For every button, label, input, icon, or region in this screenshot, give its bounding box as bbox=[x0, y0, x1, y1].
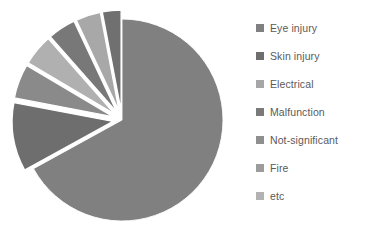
legend-item[interactable]: Electrical bbox=[256, 70, 376, 98]
pie-chart-figure: Eye injurySkin injuryElectricalMalfuncti… bbox=[0, 0, 376, 230]
legend-item[interactable]: Not-significant bbox=[256, 126, 376, 154]
chart-legend: Eye injurySkin injuryElectricalMalfuncti… bbox=[256, 14, 376, 210]
legend-swatch-icon bbox=[256, 164, 264, 172]
legend-swatch-icon bbox=[256, 80, 264, 88]
legend-swatch-icon bbox=[256, 136, 264, 144]
legend-item[interactable]: Eye injury bbox=[256, 14, 376, 42]
legend-item[interactable]: Malfunction bbox=[256, 98, 376, 126]
pie-svg bbox=[0, 0, 240, 230]
pie-plot-area bbox=[0, 0, 240, 230]
legend-swatch-icon bbox=[256, 52, 264, 60]
legend-item[interactable]: Skin injury bbox=[256, 42, 376, 70]
legend-item-label: Electrical bbox=[270, 78, 314, 90]
legend-swatch-icon bbox=[256, 24, 264, 32]
legend-swatch-icon bbox=[256, 192, 264, 200]
legend-item-label: etc bbox=[270, 190, 284, 202]
legend-swatch-icon bbox=[256, 108, 264, 116]
legend-item[interactable]: etc bbox=[256, 182, 376, 210]
legend-item-label: Skin injury bbox=[270, 50, 320, 62]
legend-item-label: Not-significant bbox=[270, 134, 338, 146]
legend-item-label: Malfunction bbox=[270, 106, 325, 118]
legend-item[interactable]: Fire bbox=[256, 154, 376, 182]
legend-item-label: Fire bbox=[270, 162, 288, 174]
legend-item-label: Eye injury bbox=[270, 22, 317, 34]
